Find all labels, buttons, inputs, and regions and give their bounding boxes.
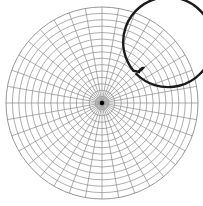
pole-center-dot (100, 101, 104, 105)
highlight-circle-with-hook (123, 0, 203, 87)
polar-grid-diagram (0, 0, 203, 206)
